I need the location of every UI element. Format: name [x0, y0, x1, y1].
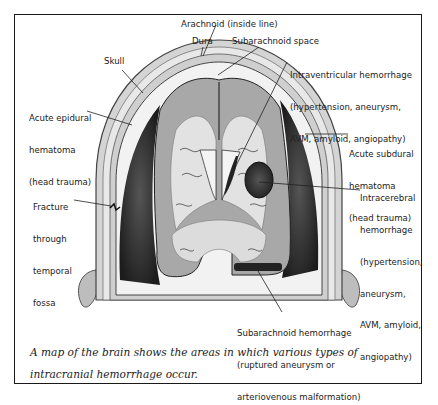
subarachnoid-hemorrhage	[234, 263, 282, 271]
intracerebral-hemorrhage	[245, 162, 273, 198]
label-dura: Dura	[192, 36, 213, 47]
label-line: temporal	[33, 266, 72, 277]
label-line: through	[33, 234, 72, 245]
label-line: Subarachnoid hemorrhage	[237, 328, 361, 339]
label-line: fossa	[33, 298, 72, 309]
label-line: (hypertension,	[360, 257, 423, 268]
label-line: arteriovenous malformation)	[237, 392, 361, 403]
label-line: AVM, amyloid,	[360, 320, 423, 331]
right-ear-icon	[340, 270, 360, 307]
label-line: Fracture	[33, 202, 72, 213]
label-line: Intracerebral	[360, 193, 423, 204]
left-ear-icon	[78, 270, 98, 307]
label-skull: Skull	[104, 56, 124, 67]
figure-caption: A map of the brain shows the areas in wh…	[30, 341, 420, 385]
label-subarachnoid-space: Subarachnoid space	[232, 36, 319, 47]
label-line: (hypertension, aneurysm,	[290, 102, 412, 113]
label-arachnoid: Arachnoid (inside line)	[181, 19, 278, 30]
label-line: Acute epidural	[29, 113, 92, 124]
label-line: hemorrhage	[360, 225, 423, 236]
label-line: Acute subdural	[349, 149, 414, 160]
label-line: hematoma	[29, 145, 92, 156]
label-fracture: Fracture through temporal fossa	[33, 181, 72, 319]
label-line: Intraventricular hemorrhage	[290, 70, 412, 81]
label-line: aneurysm,	[360, 289, 423, 300]
